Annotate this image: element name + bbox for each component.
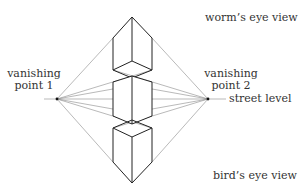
vanishing-point-1-line2: point 1: [3, 80, 65, 92]
birds-eye-view-label: bird’s eye view: [213, 170, 297, 182]
vanishing-point-2-label: vanishing point 2: [200, 68, 262, 92]
boxes: [113, 17, 152, 183]
worms-eye-box: [113, 17, 152, 78]
street-level-box: [113, 76, 152, 124]
vanishing-point-1-label: vanishing point 1: [3, 68, 65, 92]
vanishing-point-2-dot: [207, 98, 210, 101]
worms-eye-view-label: worm’s eye view: [205, 12, 298, 24]
vanishing-point-1-dot: [56, 98, 59, 101]
street-level-label: street level: [229, 93, 292, 105]
vanishing-point-2-line2: point 2: [200, 80, 262, 92]
birds-eye-box: [113, 120, 152, 183]
